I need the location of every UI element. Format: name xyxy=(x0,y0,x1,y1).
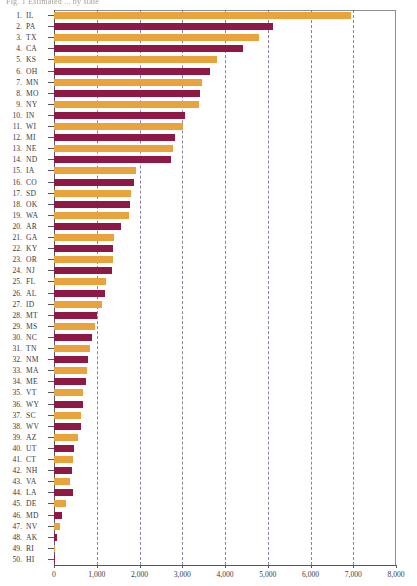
row-state-label: MT xyxy=(26,310,48,321)
row-state-label: KY xyxy=(26,243,48,254)
row-rank: 48. xyxy=(0,532,22,543)
bar xyxy=(54,378,86,385)
row-state-label: MA xyxy=(26,365,48,376)
row-state-label: IA xyxy=(26,165,48,176)
x-tick-0 xyxy=(54,565,55,568)
row-state-label: TX xyxy=(26,32,48,43)
row-state-label: WA xyxy=(26,210,48,221)
row-state-label: OK xyxy=(26,199,48,210)
bar xyxy=(54,256,113,263)
row-state-label: ME xyxy=(26,376,48,387)
bar xyxy=(54,267,112,274)
bar xyxy=(54,401,83,408)
bar xyxy=(54,367,87,374)
row-rank: 3. xyxy=(0,32,22,43)
row-state-label: CA xyxy=(26,43,48,54)
row-state-label: MO xyxy=(26,88,48,99)
bar xyxy=(54,356,88,363)
row-state-label: GA xyxy=(26,232,48,243)
bar xyxy=(54,112,185,119)
row-state-label: MN xyxy=(26,77,48,88)
bar-row: 30.NC xyxy=(0,332,417,343)
bar-row: 3.TX xyxy=(0,32,417,43)
row-rank: 47. xyxy=(0,521,22,532)
row-state-label: WI xyxy=(26,121,48,132)
x-tick-2000 xyxy=(140,565,141,568)
row-state-label: CT xyxy=(26,454,48,465)
bar xyxy=(54,12,351,19)
bar-row: 6.OH xyxy=(0,66,417,77)
row-state-label: NC xyxy=(26,332,48,343)
row-rank: 37. xyxy=(0,410,22,421)
bar xyxy=(54,179,134,186)
bar xyxy=(54,56,217,63)
row-state-label: ND xyxy=(26,154,48,165)
bar-row: 42.NH xyxy=(0,465,417,476)
bar xyxy=(54,334,92,341)
bar xyxy=(54,123,183,130)
bar xyxy=(54,212,129,219)
row-rank: 50. xyxy=(0,554,22,565)
row-state-label: AK xyxy=(26,532,48,543)
x-tick-1000 xyxy=(97,565,98,568)
row-rank: 36. xyxy=(0,399,22,410)
bar xyxy=(54,134,175,141)
row-rank: 12. xyxy=(0,132,22,143)
bar-row: 32.NM xyxy=(0,354,417,365)
bar xyxy=(54,245,113,252)
row-rank: 10. xyxy=(0,110,22,121)
row-state-label: SD xyxy=(26,188,48,199)
row-state-label: OH xyxy=(26,66,48,77)
x-tick-4000 xyxy=(225,565,226,568)
bar xyxy=(54,79,202,86)
row-rank: 4. xyxy=(0,43,22,54)
row-rank: 9. xyxy=(0,99,22,110)
row-rank: 15. xyxy=(0,165,22,176)
bar xyxy=(54,445,74,452)
chart-title-clipped: Fig. 1 Estimated ... by state xyxy=(6,0,246,7)
bar-row: 16.CO xyxy=(0,177,417,188)
bar xyxy=(54,34,259,41)
x-tick-6000 xyxy=(311,565,312,568)
bar-row: 7.MN xyxy=(0,77,417,88)
bar-row: 39.AZ xyxy=(0,432,417,443)
bar-row: 34.ME xyxy=(0,376,417,387)
x-tick-7000 xyxy=(353,565,354,568)
bar xyxy=(54,23,273,30)
x-tick-label: 8,000 xyxy=(366,570,417,580)
bar xyxy=(54,90,200,97)
row-rank: 16. xyxy=(0,177,22,188)
bar xyxy=(54,45,243,52)
row-rank: 46. xyxy=(0,510,22,521)
bar xyxy=(54,412,81,419)
bar-row: 45.DE xyxy=(0,498,417,509)
row-state-label: MD xyxy=(26,510,48,521)
row-rank: 23. xyxy=(0,254,22,265)
bar-row: 15.IA xyxy=(0,165,417,176)
row-state-label: IN xyxy=(26,110,48,121)
bar xyxy=(54,301,102,308)
bar-row: 5.KS xyxy=(0,54,417,65)
row-rank: 49. xyxy=(0,543,22,554)
row-state-label: SC xyxy=(26,410,48,421)
row-rank: 35. xyxy=(0,387,22,398)
bar-row: 38.WV xyxy=(0,421,417,432)
bar-row: 11.WI xyxy=(0,121,417,132)
row-rank: 42. xyxy=(0,465,22,476)
bar-row: 21.GA xyxy=(0,232,417,243)
bar xyxy=(54,101,199,108)
bar-row: 20.AR xyxy=(0,221,417,232)
bar xyxy=(54,68,210,75)
bar-row: 12.MI xyxy=(0,132,417,143)
bar xyxy=(54,223,121,230)
bar xyxy=(54,145,173,152)
row-rank: 6. xyxy=(0,66,22,77)
row-state-label: WV xyxy=(26,421,48,432)
row-state-label: VT xyxy=(26,387,48,398)
bar-row: 18.OK xyxy=(0,199,417,210)
bar-row: 25.FL xyxy=(0,276,417,287)
bar-row: 48.AK xyxy=(0,532,417,543)
bar-row: 19.WA xyxy=(0,210,417,221)
bar-row: 26.AL xyxy=(0,288,417,299)
bar-row: 31.TN xyxy=(0,343,417,354)
